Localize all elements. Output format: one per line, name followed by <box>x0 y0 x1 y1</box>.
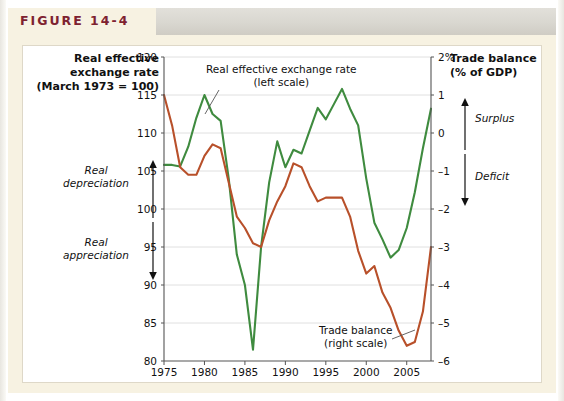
left-tick-label: 115 <box>137 89 157 101</box>
x-tick-label: 1980 <box>191 366 218 378</box>
right-tick-label: –5 <box>438 317 450 329</box>
x-tick-label: 2000 <box>353 366 380 378</box>
chart-container: Real effective exchange rate (March 1973… <box>23 46 543 384</box>
figure-plate: Real effective exchange rate (March 1973… <box>22 45 542 383</box>
left-tick-label: 120 <box>137 51 157 63</box>
x-tick-label: 2005 <box>393 366 420 378</box>
x-tick-label: 1975 <box>151 366 178 378</box>
left-tick-label: 80 <box>144 355 157 367</box>
right-tick-label: –2 <box>438 203 450 215</box>
left-tick-label: 90 <box>144 279 157 291</box>
figure-page: FIGURE 14-4 Real effective exchange rate… <box>0 0 564 401</box>
right-tick-label: –3 <box>438 241 450 253</box>
right-tick-label: 2% <box>438 51 455 63</box>
right-tick-label: –4 <box>438 279 450 291</box>
left-tick-label: 110 <box>137 127 157 139</box>
left-axis-ticks: 80859095100105110115120 <box>137 51 164 367</box>
right-tick-label: 0 <box>438 127 445 139</box>
x-tick-label: 1990 <box>272 366 299 378</box>
left-tick-label: 100 <box>137 203 157 215</box>
scan-edge-right <box>558 0 564 401</box>
x-axis-ticks: 1975198019851990199520002005 <box>151 361 420 378</box>
left-tick-label: 85 <box>144 317 157 329</box>
plot-area: 80859095100105110115120 –6–5–4–3–2–1012%… <box>23 46 543 384</box>
x-tick-label: 1995 <box>312 366 339 378</box>
left-tick-label: 105 <box>137 165 157 177</box>
x-tick-label: 1985 <box>232 366 259 378</box>
left-tick-label: 95 <box>144 241 157 253</box>
right-tick-label: 1 <box>438 89 445 101</box>
data-series <box>164 89 431 350</box>
right-axis-ticks: –6–5–4–3–2–1012% <box>431 51 455 367</box>
right-tick-label: –6 <box>438 355 450 367</box>
scan-edge-left <box>0 0 6 401</box>
right-tick-label: –1 <box>438 165 450 177</box>
figure-label: FIGURE 14-4 <box>20 13 129 28</box>
